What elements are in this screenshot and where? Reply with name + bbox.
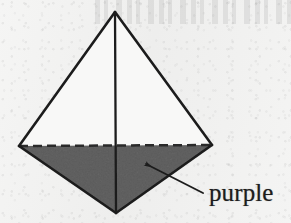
figure-canvas: purple <box>0 0 291 223</box>
edge-apex-to-bottom <box>115 12 116 213</box>
purple-label: purple <box>209 180 273 205</box>
